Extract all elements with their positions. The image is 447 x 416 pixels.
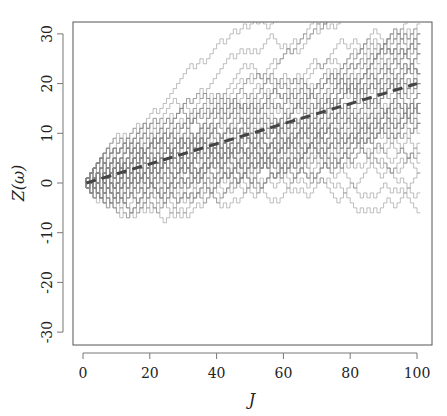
x-tick-label: 40 [208,365,226,381]
y-tick-label: 20 [39,75,55,93]
x-tick-label: 80 [341,365,359,381]
y-tick-label: -10 [39,221,55,244]
y-tick-label: 30 [39,25,55,43]
x-tick-label: 20 [141,365,159,381]
x-tick-label: 60 [274,365,292,381]
x-axis: 020406080100 [79,353,431,381]
x-tick-label: 100 [404,365,431,381]
x-tick-label: 0 [79,365,88,381]
random-walk-paths [86,0,420,223]
x-axis-title: J [246,390,257,409]
random-walk-chart: -30-20-100102030 020406080100 J Z(ω) [0,0,447,416]
y-axis: -30-20-100102030 [39,25,63,343]
y-tick-label: 0 [39,179,55,188]
y-tick-label: -20 [39,271,55,294]
y-tick-label: 10 [39,124,55,142]
y-axis-title: Z(ω) [9,165,28,203]
y-tick-label: -30 [39,321,55,344]
